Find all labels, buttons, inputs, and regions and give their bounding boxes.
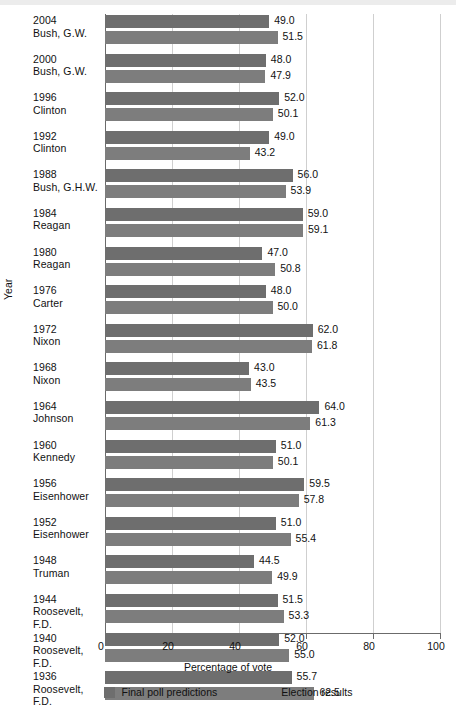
bar-rows: 2004Bush, G.W.49.051.52000Bush, G.W.48.0… (0, 14, 456, 709)
row-label: 1996Clinton (33, 91, 103, 116)
result-bar-value: 53.9 (291, 184, 311, 197)
x-tick-60: 60 (296, 640, 308, 652)
x-tick-100: 100 (427, 640, 445, 652)
x-tick-labels: 020406080100 (0, 640, 456, 654)
bar-row-group: 1976Carter48.050.0 (0, 284, 456, 323)
result-bar-value: 50.8 (280, 262, 300, 275)
row-year: 1944 (33, 593, 103, 606)
result-bar-wrap: 55.4 (105, 533, 456, 546)
result-bar (105, 108, 273, 121)
legend-item: Final poll predictions (104, 686, 218, 698)
bar-row-group: 1944Roosevelt, F.D.51.553.3 (0, 593, 456, 632)
row-label: 1948Truman (33, 554, 103, 579)
row-candidate: Reagan (33, 219, 103, 232)
row-year: 1972 (33, 323, 103, 336)
poll-bar (105, 15, 269, 28)
row-year: 1948 (33, 554, 103, 567)
result-bar-value: 49.9 (277, 570, 297, 583)
poll-bar (105, 362, 249, 375)
row-year: 1956 (33, 477, 103, 490)
row-year: 1988 (33, 168, 103, 181)
result-bar (105, 417, 310, 430)
result-bar (105, 185, 286, 198)
poll-bar-value: 49.0 (274, 14, 294, 27)
row-candidate: Bush, G.W. (33, 27, 103, 40)
poll-bar-value: 59.0 (308, 207, 328, 220)
result-bar-value: 43.5 (256, 377, 276, 390)
poll-bar-wrap: 59.5 (105, 478, 456, 491)
row-year: 1992 (33, 130, 103, 143)
poll-bar-value: 62.0 (318, 323, 338, 336)
bar-row-group: 1972Nixon62.061.8 (0, 323, 456, 362)
result-bar-value: 50.1 (278, 455, 298, 468)
row-label: 1976Carter (33, 284, 103, 309)
row-candidate: Bush, G.H.W. (33, 181, 103, 194)
result-bar-wrap: 59.1 (105, 224, 456, 237)
result-bar-wrap: 50.8 (105, 263, 456, 276)
bar-row-group: 1980Reagan47.050.8 (0, 246, 456, 285)
row-label: 1960Kennedy (33, 439, 103, 464)
poll-bar (105, 324, 313, 337)
row-candidate: Eisenhower (33, 490, 103, 503)
result-bar-value: 50.1 (278, 107, 298, 120)
result-bar (105, 610, 284, 623)
row-label: 1992Clinton (33, 130, 103, 155)
row-label: 1956Eisenhower (33, 477, 103, 502)
y-axis-label: Year (2, 279, 14, 300)
result-bar-wrap: 43.5 (105, 378, 456, 391)
chart-page: 2004Bush, G.W.49.051.52000Bush, G.W.48.0… (0, 0, 456, 714)
result-bar-wrap: 51.5 (105, 31, 456, 44)
poll-bar-wrap: 55.7 (105, 671, 456, 684)
legend-label: Final poll predictions (122, 686, 218, 698)
bar-row-group: 1984Reagan59.059.1 (0, 207, 456, 246)
poll-bar-value: 44.5 (259, 554, 279, 567)
legend-label: Election results (281, 686, 352, 698)
scan-band (0, 0, 456, 5)
poll-bar (105, 247, 262, 260)
poll-bar-wrap: 52.0 (105, 92, 456, 105)
x-tick-20: 20 (162, 640, 174, 652)
poll-bar-wrap: 44.5 (105, 555, 456, 568)
row-year: 1976 (33, 284, 103, 297)
row-label: 1972Nixon (33, 323, 103, 348)
result-bar (105, 70, 265, 83)
result-bar-wrap: 61.3 (105, 417, 456, 430)
row-label: 1988Bush, G.H.W. (33, 168, 103, 193)
poll-bar-value: 43.0 (254, 361, 274, 374)
result-bar-value: 53.3 (289, 609, 309, 622)
row-candidate: Truman (33, 567, 103, 580)
result-bar-wrap: 50.1 (105, 108, 456, 121)
result-bar-value: 51.5 (283, 30, 303, 43)
bar-row-group: 1956Eisenhower59.557.8 (0, 477, 456, 516)
result-bar-wrap: 50.1 (105, 456, 456, 469)
row-year: 1964 (33, 400, 103, 413)
legend-item: Election results (263, 686, 352, 698)
row-label: 2000Bush, G.W. (33, 53, 103, 78)
bar-row-group: 1948Truman44.549.9 (0, 554, 456, 593)
result-bar-wrap: 43.2 (105, 147, 456, 160)
poll-bar-wrap: 49.0 (105, 131, 456, 144)
result-bar-wrap: 49.9 (105, 571, 456, 584)
result-bar-value: 61.3 (315, 416, 335, 429)
row-year: 1968 (33, 361, 103, 374)
row-candidate: Carter (33, 297, 103, 310)
result-bar-wrap: 61.8 (105, 340, 456, 353)
row-label: 1944Roosevelt, F.D. (33, 593, 103, 631)
row-candidate: Kennedy (33, 451, 103, 464)
row-candidate: Clinton (33, 104, 103, 117)
result-bar-value: 57.8 (304, 493, 324, 506)
poll-bar-value: 48.0 (271, 284, 291, 297)
row-candidate: Nixon (33, 374, 103, 387)
result-bar (105, 494, 299, 507)
bar-row-group: 1960Kennedy51.050.1 (0, 439, 456, 478)
poll-bar-wrap: 48.0 (105, 285, 456, 298)
poll-bar-wrap: 64.0 (105, 401, 456, 414)
poll-bar-value: 56.0 (298, 168, 318, 181)
x-tick-40: 40 (229, 640, 241, 652)
poll-bar-wrap: 51.5 (105, 594, 456, 607)
x-axis-label: Percentage of vote (0, 661, 456, 673)
row-candidate: Nixon (33, 335, 103, 348)
poll-bar (105, 478, 304, 491)
poll-bar (105, 131, 269, 144)
poll-bar-wrap: 49.0 (105, 15, 456, 28)
